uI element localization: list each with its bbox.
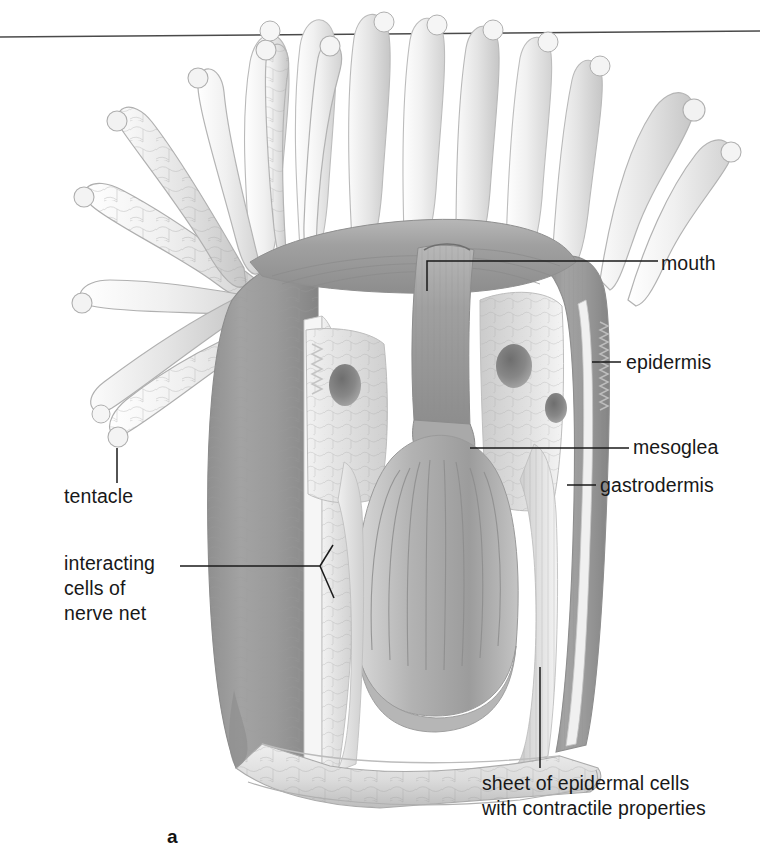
label-sheet-line2: with contractile properties xyxy=(482,797,706,819)
label-mouth: mouth xyxy=(661,251,716,276)
right-pore-lower xyxy=(545,393,567,423)
label-nerve-net-line1: interacting xyxy=(64,552,155,574)
label-sheet-line1: sheet of epidermal cells xyxy=(482,772,689,794)
mesenteries xyxy=(355,435,518,732)
label-sheet-of-epidermal-cells: sheet of epidermal cellswith contractile… xyxy=(482,771,706,821)
label-nerve-net-line3: nerve net xyxy=(64,602,146,624)
figure-container: mouth epidermis mesoglea gastrodermis te… xyxy=(0,0,760,865)
figure-panel-letter: a xyxy=(167,826,178,848)
label-epidermis: epidermis xyxy=(626,350,711,375)
anemone-illustration xyxy=(0,0,760,865)
left-pore xyxy=(329,364,361,406)
label-gastrodermis: gastrodermis xyxy=(600,473,714,498)
label-nerve-net: interactingcells ofnerve net xyxy=(64,551,155,626)
label-nerve-net-line2: cells of xyxy=(64,577,126,599)
body-column xyxy=(208,219,610,808)
label-mesoglea: mesoglea xyxy=(633,435,718,460)
right-pore-upper xyxy=(496,344,532,388)
label-tentacle: tentacle xyxy=(64,484,133,509)
